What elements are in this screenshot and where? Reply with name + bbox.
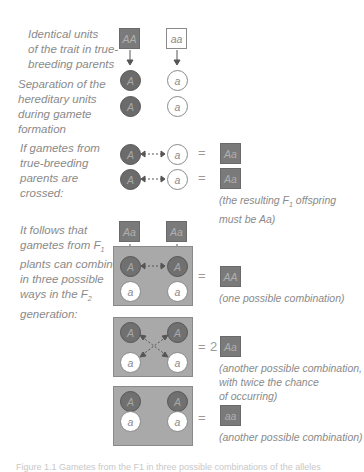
gamete-A: A	[120, 391, 141, 412]
note-text: (another possible combination,	[219, 361, 362, 375]
combination-note: (another possible combination, with twic…	[219, 361, 362, 403]
result-Aa: Aa	[220, 336, 241, 357]
multiplier: 2	[210, 339, 217, 354]
note-text: of occurring)	[219, 389, 362, 403]
figure-caption: Figure 1.1 Gametes from the F1 in three …	[16, 462, 321, 472]
equals-sign: =	[198, 410, 206, 425]
equals-sign: =	[198, 339, 206, 354]
note-text: with twice the chance	[219, 375, 362, 389]
gamete-A: A	[167, 391, 188, 412]
combination-note: (another possible combination)	[219, 430, 363, 444]
result-aa: aa	[220, 405, 241, 426]
gamete-a: a	[167, 411, 188, 432]
gamete-a: a	[120, 411, 141, 432]
